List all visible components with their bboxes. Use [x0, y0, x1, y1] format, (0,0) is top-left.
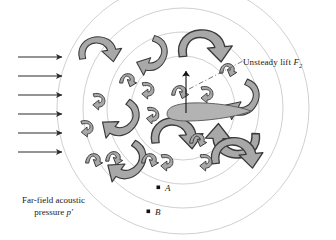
eddy-12: [161, 154, 174, 171]
eddy-5: [142, 82, 155, 99]
vortex-arrow-top-left: [77, 34, 124, 67]
far-field-label-line2: pressure p′: [22, 206, 85, 218]
unsteady-lift-label-text: Unsteady lift: [243, 57, 293, 67]
observer-point-b-dot: [147, 210, 151, 214]
observer-point-a-dot: [157, 186, 161, 190]
observer-point-a-label: A: [165, 183, 171, 193]
far-field-pressure-label: Far-field acoustic pressure p′: [22, 194, 85, 218]
eddy-13: [200, 154, 213, 171]
lift-label-leader-line: [189, 61, 243, 89]
eddy-6: [171, 84, 190, 101]
vortex-arrow-top-right: [177, 27, 234, 65]
eddy-7: [201, 86, 213, 103]
far-field-label-line2-prefix: pressure: [34, 207, 66, 217]
far-field-label-line1: Far-field acoustic: [22, 194, 85, 206]
unsteady-lift-label: Unsteady lift F2: [243, 57, 302, 69]
eddy-8: [146, 107, 160, 125]
eddy-9: [219, 62, 238, 79]
far-field-pressure-symbol: p′: [66, 207, 72, 217]
eddy-3: [81, 120, 94, 137]
vortex-arrow-top-mid: [133, 33, 172, 81]
eddy-2: [93, 93, 106, 110]
observer-point-b-label: B: [155, 207, 161, 217]
inflow-arrow-group: [18, 57, 62, 152]
unsteady-lift-subscript: 2: [299, 62, 302, 69]
